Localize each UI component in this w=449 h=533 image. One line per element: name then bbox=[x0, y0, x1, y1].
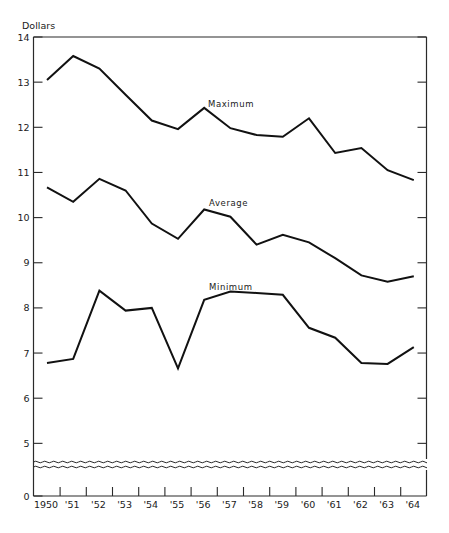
x-tick-label: '52 bbox=[91, 499, 106, 510]
y-tick-label: 5 bbox=[23, 438, 29, 449]
x-tick-label: '61 bbox=[327, 499, 342, 510]
series-label-average: Average bbox=[209, 198, 248, 208]
x-tick-label: '63 bbox=[379, 499, 394, 510]
y-tick-label: 11 bbox=[17, 167, 29, 178]
series-label-maximum: Maximum bbox=[208, 99, 254, 109]
x-tick-label: '55 bbox=[170, 499, 185, 510]
y-tick-label: 14 bbox=[17, 32, 29, 43]
x-tick-label: '60 bbox=[301, 499, 316, 510]
x-tick-label: '64 bbox=[405, 499, 420, 510]
x-tick-label: '51 bbox=[65, 499, 80, 510]
x-tick-label: '54 bbox=[143, 499, 158, 510]
x-axis: 1950'51'52'53'54'55'56'57'58'59'60'61'62… bbox=[34, 487, 420, 510]
chart-canvas: Dollars 0567891011121314 1950'51'52'53'5… bbox=[0, 0, 449, 533]
y-tick-label: 7 bbox=[23, 348, 29, 359]
y-tick-label: 8 bbox=[23, 302, 29, 313]
axis-break-wavy-lines bbox=[34, 461, 427, 468]
x-tick-label: '59 bbox=[274, 499, 289, 510]
y-tick-label: 0 bbox=[23, 491, 29, 502]
x-tick-label: '62 bbox=[353, 499, 368, 510]
x-tick-label: 1950 bbox=[34, 499, 58, 510]
y-tick-label: 13 bbox=[17, 77, 29, 88]
y-tick-label: 12 bbox=[17, 122, 29, 133]
axis-break-line bbox=[34, 466, 427, 468]
x-tick-label: '53 bbox=[117, 499, 132, 510]
x-tick-label: '56 bbox=[196, 499, 211, 510]
line-chart: Dollars 0567891011121314 1950'51'52'53'5… bbox=[0, 0, 449, 533]
series-line-average bbox=[47, 179, 414, 282]
y-tick-label: 10 bbox=[17, 212, 29, 223]
series-line-maximum bbox=[47, 56, 414, 180]
series-line-minimum bbox=[47, 291, 414, 369]
series-label-minimum: Minimum bbox=[209, 282, 253, 292]
x-tick-label: '57 bbox=[222, 499, 237, 510]
axis-break-line bbox=[34, 461, 427, 463]
y-tick-label: 6 bbox=[23, 393, 29, 404]
y-tick-label: 9 bbox=[23, 257, 29, 268]
y-axis-unit-label: Dollars bbox=[22, 20, 55, 31]
x-tick-label: '58 bbox=[248, 499, 263, 510]
